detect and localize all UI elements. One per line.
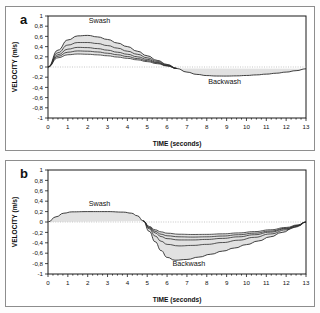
annotation-swash: Swash xyxy=(89,199,111,208)
x-tick-label: 1 xyxy=(66,123,70,130)
x-tick-label: 3 xyxy=(106,279,110,286)
y-tick-label: -0,2 xyxy=(32,73,43,80)
chart-b: 012345678910111213-1-0,8-0,6-0,4-0,200,2… xyxy=(6,161,314,306)
x-tick-label: 4 xyxy=(126,279,130,286)
x-tick-label: 7 xyxy=(185,123,189,130)
x-tick-label: 2 xyxy=(86,123,90,130)
x-tick-label: 6 xyxy=(165,123,169,130)
chart-panel-b: b 012345678910111213-1-0,8-0,6-0,4-0,200… xyxy=(5,160,315,307)
y-tick-label: 0 xyxy=(40,218,44,225)
x-tick-label: 8 xyxy=(205,123,209,130)
x-axis-title: TIME (seconds) xyxy=(153,296,202,304)
y-tick-label: -0,4 xyxy=(32,239,43,246)
y-axis-title: VELOCITY (m/s) xyxy=(11,42,19,92)
x-tick-label: 12 xyxy=(283,279,290,286)
figure-container: a 012345678910111213-1-0,8-0,6-0,4-0,200… xyxy=(0,0,320,313)
chart-panel-a: a 012345678910111213-1-0,8-0,6-0,4-0,200… xyxy=(5,6,315,151)
y-tick-label: 1 xyxy=(40,166,44,173)
y-tick-label: 0,4 xyxy=(34,197,43,204)
y-tick-label: -1 xyxy=(37,270,43,277)
x-tick-label: 9 xyxy=(225,123,229,130)
x-tick-label: 13 xyxy=(303,279,310,286)
annotation-backwash: Backwash xyxy=(208,77,241,86)
x-axis-title: TIME (seconds) xyxy=(153,140,202,148)
annotation-swash: Swash xyxy=(89,16,111,25)
x-tick-label: 11 xyxy=(263,279,270,286)
x-tick-label: 6 xyxy=(165,279,169,286)
y-tick-label: 0,6 xyxy=(34,187,43,194)
y-tick-label: 0 xyxy=(40,63,44,70)
x-tick-label: 7 xyxy=(185,279,189,286)
y-tick-label: 0,2 xyxy=(34,53,43,60)
x-tick-label: 2 xyxy=(86,279,90,286)
y-tick-label: -1 xyxy=(37,114,43,121)
x-tick-label: 5 xyxy=(146,279,150,286)
y-tick-label: 0,2 xyxy=(34,208,43,215)
y-tick-label: 0,8 xyxy=(34,177,43,184)
x-tick-label: 5 xyxy=(146,123,150,130)
x-tick-label: 0 xyxy=(46,279,50,286)
x-tick-label: 11 xyxy=(263,123,270,130)
x-tick-label: 1 xyxy=(66,279,70,286)
x-tick-label: 12 xyxy=(283,123,290,130)
x-tick-label: 10 xyxy=(243,123,250,130)
y-tick-label: -0,6 xyxy=(32,94,43,101)
y-axis-title: VELOCITY (m/s) xyxy=(11,197,19,247)
y-tick-label: -0,6 xyxy=(32,249,43,256)
x-tick-label: 3 xyxy=(106,123,110,130)
panel-label-b: b xyxy=(20,166,28,181)
chart-a: 012345678910111213-1-0,8-0,6-0,4-0,200,2… xyxy=(6,7,314,150)
y-tick-label: -0,8 xyxy=(32,104,43,111)
annotation-backwash: Backwash xyxy=(173,259,206,268)
panel-label-a: a xyxy=(20,12,27,27)
y-tick-label: 1 xyxy=(40,12,44,19)
x-tick-label: 13 xyxy=(303,123,310,130)
y-tick-label: -0,4 xyxy=(32,84,43,91)
x-tick-label: 0 xyxy=(46,123,50,130)
y-tick-label: -0,8 xyxy=(32,260,43,267)
y-tick-label: 0,4 xyxy=(34,43,43,50)
y-tick-label: 0,6 xyxy=(34,33,43,40)
x-tick-label: 9 xyxy=(225,279,229,286)
y-tick-label: 0,8 xyxy=(34,22,43,29)
y-tick-label: -0,2 xyxy=(32,229,43,236)
x-tick-label: 8 xyxy=(205,279,209,286)
x-tick-label: 4 xyxy=(126,123,130,130)
x-tick-label: 10 xyxy=(243,279,250,286)
